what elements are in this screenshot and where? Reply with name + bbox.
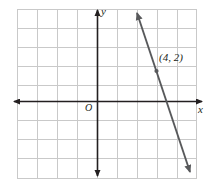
plotted-line [137,13,190,172]
plotted-point-4-2 [154,69,158,73]
y-axis-label: y [101,6,106,17]
graph-canvas [0,0,216,188]
origin-label: O [85,103,92,113]
grid-horizontal-lines [17,10,197,179]
coordinate-plane-figure: y x O (4, 2) [0,0,216,188]
point-coordinate-label: (4, 2) [159,52,183,63]
grid-vertical-lines [18,9,197,179]
x-axis-label: x [198,104,203,115]
